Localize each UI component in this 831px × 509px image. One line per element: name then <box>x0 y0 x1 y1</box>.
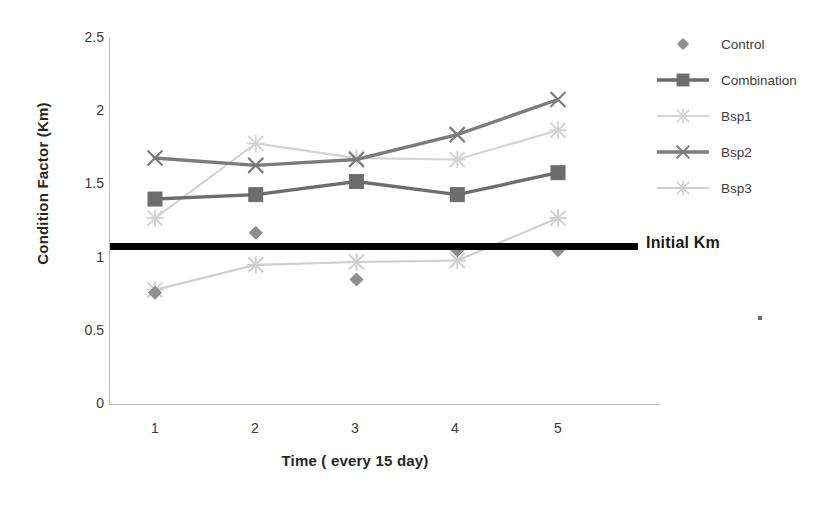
initial-km-label: Initial Km <box>646 234 720 252</box>
legend: Control Combination Bsp1 Bsp2 Bsp3 <box>655 26 825 206</box>
legend-label: Bsp2 <box>721 145 752 160</box>
bsp3-marker-icon <box>655 179 711 197</box>
legend-label: Control <box>721 37 765 52</box>
legend-label: Bsp1 <box>721 109 752 124</box>
legend-item-bsp2[interactable]: Bsp2 <box>655 134 825 170</box>
initial-km-reference-line <box>110 243 638 250</box>
bsp2-marker-icon <box>655 143 711 161</box>
series-combination <box>148 166 565 206</box>
combination-marker-icon <box>655 71 711 89</box>
x-axis-title: Time ( every 15 day) <box>120 452 590 469</box>
legend-item-combination[interactable]: Combination <box>655 62 825 98</box>
control-marker-icon <box>655 35 711 53</box>
series-bsp2 <box>148 92 566 173</box>
legend-item-bsp3[interactable]: Bsp3 <box>655 170 825 206</box>
bsp1-marker-icon <box>655 107 711 125</box>
legend-item-bsp1[interactable]: Bsp1 <box>655 98 825 134</box>
legend-label: Bsp3 <box>721 181 752 196</box>
legend-label: Combination <box>721 73 797 88</box>
chart-container: Condition Factor (Km) 2.5 2 1.5 1 0.5 0 … <box>0 0 831 509</box>
legend-item-control[interactable]: Control <box>655 26 825 62</box>
stray-speck <box>758 316 762 320</box>
